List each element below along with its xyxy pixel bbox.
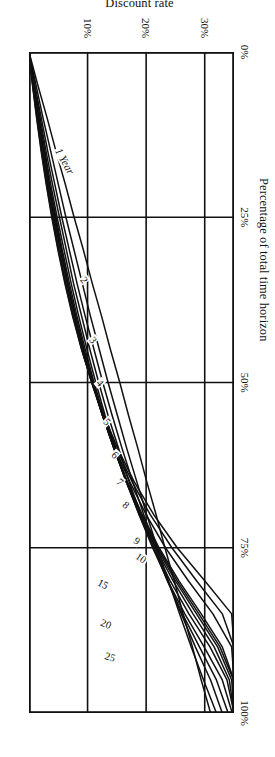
x-tick-label: 0% xyxy=(239,45,251,60)
y-tick-label: 10% xyxy=(82,18,94,38)
y-tick-label: 30% xyxy=(199,18,211,38)
y-tick-label: 20% xyxy=(140,18,152,38)
x-tick-label: 25% xyxy=(239,207,251,227)
x-tick-label: 50% xyxy=(239,372,251,392)
x-axis-title: Percentage of total time horizon xyxy=(256,178,271,342)
plot-area: 1 Year2345678910152025 xyxy=(29,52,234,713)
curve-25 xyxy=(29,52,234,647)
x-tick-label: 100% xyxy=(239,700,251,726)
x-tick-label: 75% xyxy=(239,538,251,558)
y-axis-title: Discount rate xyxy=(105,0,173,11)
discount-rate-chart: Percentage of total time horizon Discoun… xyxy=(0,0,275,757)
figure-rotator: Percentage of total time horizon Discoun… xyxy=(0,0,275,757)
curve-20 xyxy=(29,52,234,647)
